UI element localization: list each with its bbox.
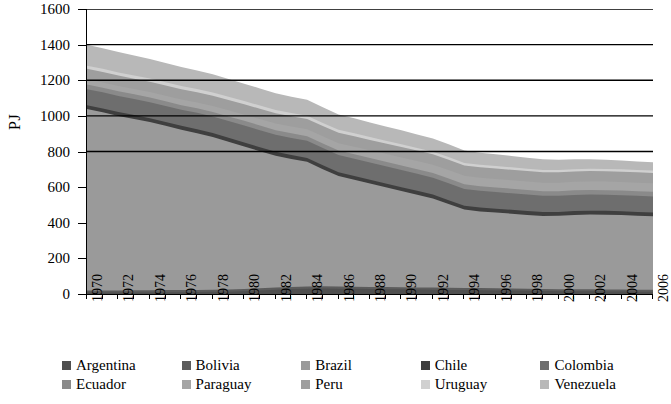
x-axis-tick-mark bbox=[463, 294, 464, 299]
x-axis-tick-label: 1976 bbox=[185, 274, 199, 302]
legend-label: Colombia bbox=[554, 358, 613, 373]
y-axis-tick-mark bbox=[78, 152, 86, 153]
x-axis-tick-label: 1990 bbox=[405, 274, 419, 302]
legend-label: Peru bbox=[315, 377, 343, 392]
legend-swatch-icon bbox=[62, 361, 71, 370]
x-axis-tick-mark bbox=[338, 294, 339, 299]
x-axis-tick-mark bbox=[149, 294, 150, 299]
x-axis-tick-mark bbox=[400, 294, 401, 299]
legend-label: Brazil bbox=[315, 358, 352, 373]
legend-item-ecuador[interactable]: Ecuador bbox=[62, 377, 182, 392]
legend-item-paraguay[interactable]: Paraguay bbox=[182, 377, 302, 392]
x-axis-tick-label: 2004 bbox=[626, 274, 640, 302]
x-axis-tick-label: 1988 bbox=[374, 274, 388, 302]
area-series-group bbox=[87, 9, 653, 294]
x-axis-tick-mark bbox=[652, 294, 653, 299]
y-axis-tick-label: 1200 bbox=[18, 73, 70, 88]
legend-item-chile[interactable]: Chile bbox=[421, 358, 541, 373]
x-axis-tick-label: 1980 bbox=[248, 274, 262, 302]
legend-label: Argentina bbox=[76, 358, 136, 373]
legend-item-peru[interactable]: Peru bbox=[301, 377, 421, 392]
x-axis-tick-mark bbox=[180, 294, 181, 299]
legend-row: Ecuador Paraguay Peru Uruguay Venezuela bbox=[62, 377, 660, 392]
legend-row: Argentina Bolivia Brazil Chile Colombia bbox=[62, 358, 660, 373]
x-axis-tick-mark bbox=[495, 294, 496, 299]
y-axis-tick-label: 1000 bbox=[18, 109, 70, 124]
x-axis-tick-label: 1970 bbox=[91, 274, 105, 302]
legend-item-bolivia[interactable]: Bolivia bbox=[182, 358, 302, 373]
x-axis-tick-label: 1982 bbox=[280, 274, 294, 302]
x-axis-tick-label: 1978 bbox=[217, 274, 231, 302]
legend-swatch-icon bbox=[301, 380, 310, 389]
x-axis-tick-mark bbox=[621, 294, 622, 299]
x-axis-tick-label: 1992 bbox=[437, 274, 451, 302]
legend-swatch-icon bbox=[301, 361, 310, 370]
x-axis-tick-label: 1986 bbox=[343, 274, 357, 302]
y-axis-tick-mark bbox=[78, 258, 86, 259]
y-axis-tick-label: 400 bbox=[18, 216, 70, 231]
y-axis-tick-mark bbox=[78, 187, 86, 188]
y-axis-tick-label: 0 bbox=[18, 287, 70, 302]
legend-swatch-icon bbox=[62, 380, 71, 389]
x-axis-tick-mark bbox=[117, 294, 118, 299]
x-axis-tick-label: 1974 bbox=[154, 274, 168, 302]
legend-label: Paraguay bbox=[196, 377, 252, 392]
legend-item-brazil[interactable]: Brazil bbox=[301, 358, 421, 373]
legend-label: Bolivia bbox=[196, 358, 240, 373]
legend-label: Venezuela bbox=[554, 377, 616, 392]
x-axis-tick-mark bbox=[526, 294, 527, 299]
x-axis-tick-label: 1996 bbox=[500, 274, 514, 302]
x-axis-tick-mark bbox=[275, 294, 276, 299]
y-axis-tick-labels: 16001400120010008006004002000 bbox=[18, 0, 70, 300]
y-axis-tick-label: 1400 bbox=[18, 38, 70, 53]
x-axis-tick-mark bbox=[589, 294, 590, 299]
y-axis-tick-label: 600 bbox=[18, 180, 70, 195]
x-axis-tick-mark bbox=[243, 294, 244, 299]
y-axis-tick-label: 800 bbox=[18, 145, 70, 160]
x-axis-tick-label: 2006 bbox=[657, 274, 671, 302]
y-axis-tick-label: 1600 bbox=[18, 2, 70, 17]
legend-swatch-icon bbox=[540, 361, 549, 370]
legend-label: Chile bbox=[435, 358, 468, 373]
x-axis-tick-mark bbox=[306, 294, 307, 299]
legend-swatch-icon bbox=[421, 361, 430, 370]
legend-label: Ecuador bbox=[76, 377, 126, 392]
x-axis-tick-mark bbox=[212, 294, 213, 299]
legend-label: Uruguay bbox=[435, 377, 488, 392]
x-axis-tick-mark bbox=[369, 294, 370, 299]
legend-swatch-icon bbox=[182, 380, 191, 389]
y-axis-tick-mark bbox=[78, 294, 86, 295]
x-axis-tick-mark bbox=[432, 294, 433, 299]
y-axis-tick-mark bbox=[78, 9, 86, 10]
plot-area bbox=[86, 9, 653, 295]
x-axis-tick-label: 1994 bbox=[468, 274, 482, 302]
y-axis-tick-mark bbox=[78, 116, 86, 117]
chart-legend: Argentina Bolivia Brazil Chile Colombia bbox=[62, 358, 660, 396]
legend-item-uruguay[interactable]: Uruguay bbox=[421, 377, 541, 392]
x-axis-tick-mark bbox=[86, 294, 87, 299]
y-axis-tick-mark bbox=[78, 223, 86, 224]
y-axis-tick-mark bbox=[78, 80, 86, 81]
y-axis-tick-mark bbox=[78, 45, 86, 46]
legend-swatch-icon bbox=[540, 380, 549, 389]
x-axis-tick-label: 2000 bbox=[563, 274, 577, 302]
x-axis-tick-label: 1984 bbox=[311, 274, 325, 302]
x-axis-tick-mark bbox=[558, 294, 559, 299]
x-axis-tick-label: 1998 bbox=[531, 274, 545, 302]
y-axis-tick-label: 200 bbox=[18, 251, 70, 266]
legend-swatch-icon bbox=[421, 380, 430, 389]
legend-swatch-icon bbox=[182, 361, 191, 370]
x-axis-tick-label: 2002 bbox=[594, 274, 608, 302]
legend-item-colombia[interactable]: Colombia bbox=[540, 358, 660, 373]
x-axis-tick-label: 1972 bbox=[122, 274, 136, 302]
legend-item-argentina[interactable]: Argentina bbox=[62, 358, 182, 373]
legend-item-venezuela[interactable]: Venezuela bbox=[540, 377, 660, 392]
